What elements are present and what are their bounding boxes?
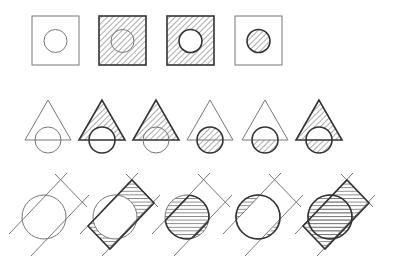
triangle-outline: [25, 100, 71, 140]
square-circle-figure: [99, 16, 146, 65]
triangle-circle-figure: [242, 100, 288, 153]
row-band-circle: [9, 173, 375, 256]
band-circle-figure: [9, 173, 89, 256]
band-circle-figure: [80, 173, 160, 256]
hatch-fill: [99, 16, 146, 65]
row-triangle-circle: [25, 100, 342, 153]
square-outline: [32, 16, 79, 65]
triangle-circle-figure: [25, 100, 71, 153]
band-circle-figure: [152, 173, 232, 256]
square-circle-figure: [235, 16, 282, 65]
band-line-upper: [9, 173, 67, 234]
diagram-canvas: [0, 0, 396, 259]
circle-outline: [22, 195, 66, 239]
square-circle-figure: [32, 16, 79, 65]
square-circle-figure: [167, 16, 214, 65]
row-square-circle: [32, 16, 282, 65]
triangle-circle-figure: [79, 100, 125, 153]
band-line-lower: [31, 195, 89, 256]
triangle-circle-figure: [296, 100, 342, 153]
band-circle-figure: [295, 173, 375, 256]
triangle-outline: [242, 100, 288, 140]
triangle-circle-figure: [133, 100, 179, 153]
triangle-circle-figure: [187, 100, 233, 153]
circle-outline: [44, 30, 67, 53]
band-circle-figure: [223, 173, 303, 256]
